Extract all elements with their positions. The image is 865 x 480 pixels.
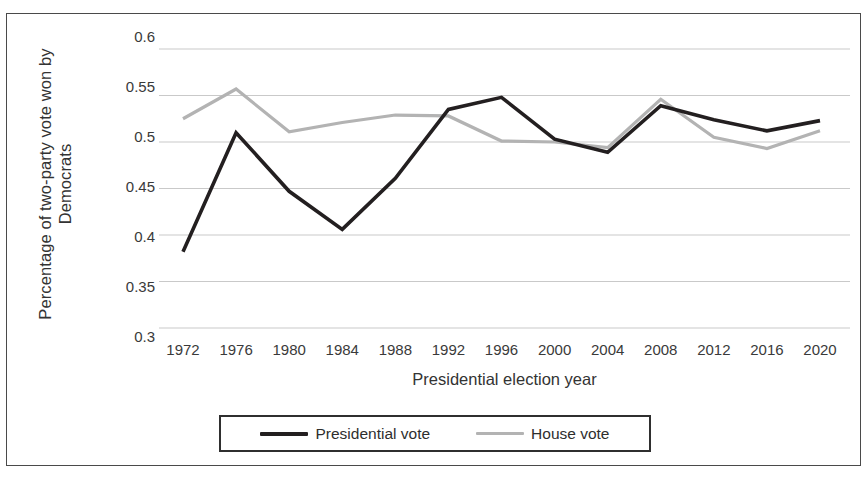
chart-legend: Presidential vote House vote [219,415,651,452]
x-tick-label: 1980 [272,341,305,358]
y-tick-label: 0.5 [105,128,155,145]
line-chart-svg [159,36,850,337]
y-tick-label: 0.35 [105,278,155,295]
x-tick-label: 2004 [591,341,624,358]
x-tick-label: 1976 [219,341,252,358]
x-tick-label: 1972 [166,341,199,358]
x-tick-label: 2020 [803,341,836,358]
legend-item-house-vote[interactable]: House vote [476,425,609,443]
x-tick-label: 2000 [538,341,571,358]
x-tick-label: 2016 [750,341,783,358]
legend-label-house-vote: House vote [531,425,609,443]
y-tick-label: 0.55 [105,78,155,95]
y-tick-label: 0.3 [105,328,155,345]
x-tick-label: 1996 [485,341,518,358]
x-tick-label: 1988 [379,341,412,358]
y-axis-title-line1: Percentage of two-party vote won by [36,48,54,319]
chart-frame: Percentage of two-party vote won by Demo… [6,13,861,466]
legend-swatch-presidential-vote [260,432,308,436]
series-line-presidential-vote [183,97,820,251]
legend-swatch-house-vote [476,432,524,435]
plot-area [159,36,850,337]
y-tick-label: 0.4 [105,228,155,245]
legend-label-presidential-vote: Presidential vote [315,425,430,443]
legend-item-presidential-vote[interactable]: Presidential vote [260,425,430,443]
y-tick-label: 0.45 [105,178,155,195]
gridlines [159,49,850,328]
y-axis-title: Percentage of two-party vote won by Demo… [19,34,91,334]
y-tick-label: 0.6 [105,28,155,45]
x-tick-label: 1992 [432,341,465,358]
series-lines [183,89,820,252]
x-tick-label: 1984 [326,341,359,358]
x-tick-label: 2008 [644,341,677,358]
x-tick-label: 2012 [697,341,730,358]
y-axis-title-line2: Democrats [56,144,74,225]
x-axis-tick-labels: 1972197619801984198819921996200020042008… [159,341,850,365]
y-axis-tick-labels: 0.6 0.55 0.5 0.45 0.4 0.35 0.3 [103,14,155,467]
x-axis-title: Presidential election year [159,370,850,389]
